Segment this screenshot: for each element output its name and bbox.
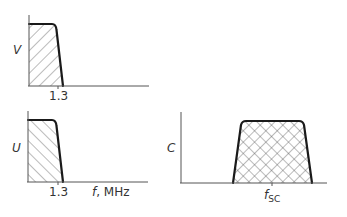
v-tick-label: 1.3 (49, 89, 68, 103)
c-spectrum-fill (233, 121, 312, 183)
panel-c: C fSC (167, 112, 327, 204)
subcarrier-frequency-label: fSC (264, 188, 280, 204)
subcarrier-subscript: SC (268, 194, 280, 204)
c-axis-label: C (167, 141, 176, 155)
frequency-axis-label: f, MHz (92, 185, 130, 199)
panel-v: V 1.3 (13, 15, 149, 103)
spectrum-diagram: V 1.3 U 1.3 f, MHz C fSC (0, 0, 347, 217)
u-axis-label: U (12, 141, 21, 155)
panel-u: U 1.3 f, MHz (12, 111, 148, 199)
u-tick-label: 1.3 (49, 185, 68, 199)
frequency-unit: , MHz (96, 185, 129, 199)
v-axis-label: V (13, 43, 22, 57)
